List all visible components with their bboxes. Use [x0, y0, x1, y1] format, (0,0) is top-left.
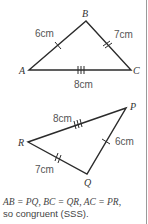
tick-pq: [102, 139, 110, 144]
caption: AB = PQ, BC = QR, AC = PR, so congruent …: [3, 197, 145, 219]
diagram-frame: B A C 6cm 7cm 8cm P R Q 8cm 6cm 7cm AB =…: [0, 0, 148, 224]
side-label-bc: 7cm: [114, 29, 133, 40]
side-label-ab: 6cm: [35, 28, 54, 39]
congruent-triangles-diagram: B A C 6cm 7cm 8cm P R Q 8cm 6cm 7cm: [0, 0, 148, 224]
side-label-qr: 7cm: [35, 164, 54, 175]
vertex-label-c: C: [133, 65, 140, 76]
vertex-label-q: Q: [84, 177, 92, 188]
caption-conclusion: so congruent (SSS).: [3, 208, 145, 219]
side-label-pq: 6cm: [115, 136, 134, 147]
vertex-label-p: P: [129, 101, 136, 112]
vertex-label-a: A: [18, 65, 26, 76]
side-label-ac: 8cm: [74, 79, 93, 90]
vertex-label-r: R: [17, 137, 24, 148]
caption-equalities: AB = PQ, BC = QR, AC = PR,: [3, 197, 145, 208]
vertex-label-b: B: [82, 8, 88, 19]
side-label-pr: 8cm: [53, 113, 72, 124]
